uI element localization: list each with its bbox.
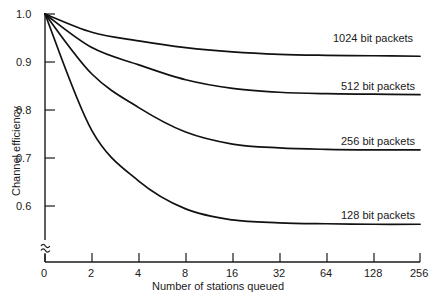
y-tick-label-1-0: 1.0: [16, 9, 31, 20]
x-tick-label-16: 16: [226, 268, 238, 279]
y-axis-break-icon: [41, 244, 50, 247]
y-axis-title: Channel efficiency: [11, 106, 22, 196]
x-tick-label-256: 256: [410, 268, 428, 279]
y-tick-label-0-6: 0.6: [16, 201, 31, 212]
x-tick-label-64: 64: [320, 268, 332, 279]
y-tick-label-0-9: 0.9: [16, 57, 31, 68]
series-label-256: 256 bit packets: [341, 136, 415, 147]
curve-128-bit: [45, 14, 420, 224]
x-tick-label-4: 4: [135, 268, 141, 279]
series-label-128: 128 bit packets: [341, 210, 415, 221]
x-tick-label-0: 0: [41, 268, 47, 279]
chart-canvas: [0, 0, 434, 302]
x-tick-label-128: 128: [364, 268, 382, 279]
x-axis-title: Number of stations queued: [152, 281, 284, 292]
x-tick-label-32: 32: [273, 268, 285, 279]
y-axis-break-icon-lower: [41, 249, 50, 252]
chart-figure: 1.0 0.9 0.8 0.7 0.6 0 2 4 8 16 32 64 128…: [0, 0, 434, 302]
x-tick-label-8: 8: [182, 268, 188, 279]
data-curves-group: [45, 14, 420, 224]
series-label-512: 512 bit packets: [341, 81, 415, 92]
x-tick-label-2: 2: [88, 268, 94, 279]
series-label-1024: 1024 bit packets: [333, 33, 413, 44]
